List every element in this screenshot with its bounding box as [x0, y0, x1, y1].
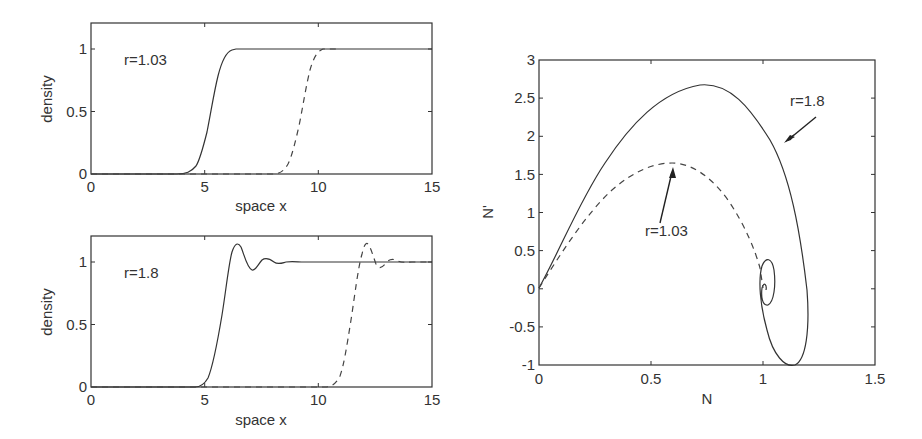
y-tick-label: 3 [527, 51, 535, 68]
y-tick-label: 0.5 [514, 242, 535, 259]
plot-frame [91, 23, 432, 174]
y-tick-label: 1 [79, 40, 87, 57]
x-tick-label: 5 [201, 391, 209, 408]
x-tick-label: 0.5 [641, 370, 662, 387]
x-tick-label: 0 [535, 370, 543, 387]
x-tick-label: 0 [87, 391, 95, 408]
parameter-annotation: r=1.8 [124, 264, 159, 281]
x-tick-label: 5 [201, 178, 209, 195]
x-axis-label: N [702, 390, 713, 407]
x-tick-label: 15 [424, 178, 441, 195]
panel-right-phase-plane: 0 0.5 1 1.5 -1 -0.5 0 0.5 1 1.5 2 2.5 3 … [479, 51, 885, 407]
parameter-annotation: r=1.03 [124, 51, 167, 68]
y-tick-label: 0.5 [66, 103, 87, 120]
y-tick-label: 0 [79, 165, 87, 182]
y-tick-label: 2 [527, 127, 535, 144]
panel-bottom-left: 0 5 10 15 0 0.5 1 space x density r=1.8 [38, 236, 440, 428]
plot-frame [91, 236, 432, 387]
y-tick-label: 1 [527, 204, 535, 221]
panel-top-left: 0 5 10 15 0 0.5 1 space x density r=1.03 [38, 23, 440, 214]
annotation-r1.03: r=1.03 [645, 222, 688, 239]
x-tick-label: 10 [310, 178, 327, 195]
annotation-arrow [660, 172, 672, 223]
x-tick-label: 15 [424, 391, 441, 408]
y-tick-label: 2.5 [514, 89, 535, 106]
annotation-r1.8: r=1.8 [790, 92, 825, 109]
y-axis-label: density [38, 288, 55, 336]
y-tick-label: 0.5 [66, 316, 87, 333]
x-tick-label: 1 [759, 370, 767, 387]
y-tick-label: -1 [522, 356, 535, 373]
y-axis-label: N' [479, 205, 496, 219]
x-axis-label: space x [235, 411, 287, 428]
y-tick-label: 0 [527, 280, 535, 297]
y-tick-label: 0 [79, 378, 87, 395]
x-tick-label: 0 [87, 178, 95, 195]
x-tick-label: 10 [310, 391, 327, 408]
y-tick-label: -0.5 [509, 318, 535, 335]
x-axis-label: space x [235, 197, 287, 214]
figure: 0 5 10 15 0 0.5 1 space x density r=1.03… [0, 0, 922, 439]
y-tick-label: 1 [79, 253, 87, 270]
y-tick-label: 1.5 [514, 166, 535, 183]
x-tick-label: 1.5 [865, 370, 886, 387]
arrowhead-icon [669, 167, 676, 178]
y-axis-label: density [38, 75, 55, 123]
